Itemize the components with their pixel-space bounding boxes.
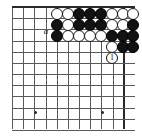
- label-layer: a: [0, 0, 142, 137]
- point-label-a: a: [41, 27, 51, 36]
- go-board-diagram: 1 a: [0, 0, 142, 137]
